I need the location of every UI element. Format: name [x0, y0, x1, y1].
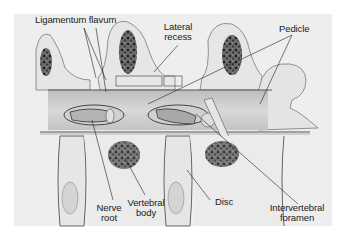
label-intervertebral-foramen-line2: foramen	[266, 213, 328, 223]
label-vertebral-body-line2: body	[124, 208, 168, 218]
label-disc: Disc	[215, 197, 233, 207]
label-pedicle: Pedicle	[279, 24, 309, 34]
label-lateral-recess: Lateral recess	[160, 22, 196, 42]
label-nerve-root: Nerve root	[94, 203, 124, 223]
label-ligamentum-flavum: Ligamentum flavum	[35, 15, 116, 25]
label-nerve-root-line2: root	[94, 213, 124, 223]
vertebral-bodies	[58, 136, 284, 226]
label-lateral-recess-line2: recess	[160, 32, 196, 42]
label-intervertebral-foramen: Intervertebral foramen	[266, 203, 328, 223]
label-vertebral-body: Vertebral body	[124, 198, 168, 218]
